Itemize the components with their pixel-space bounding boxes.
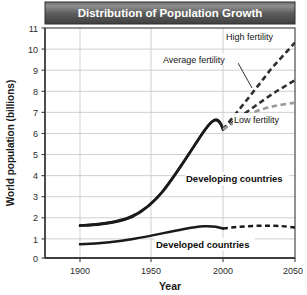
x-tick-label: 2050	[283, 266, 303, 276]
y-tick-label: 6	[33, 129, 38, 139]
y-tick-label: 3	[33, 192, 38, 202]
y-tick-label: 4	[33, 171, 38, 181]
y-tick-label: 1	[33, 235, 38, 245]
y-tick-label: 5	[33, 150, 38, 160]
population-growth-figure: Distribution of Population Growth 11 10 …	[0, 0, 307, 295]
y-tick-labels: 11 10 9 8 7 6 5 4 3 2 1 0	[28, 24, 38, 264]
y-tick-label: 8	[33, 87, 38, 97]
x-axis-title: Year	[159, 280, 181, 292]
chart-canvas: Distribution of Population Growth 11 10 …	[0, 0, 307, 295]
label-high-fertility: High fertility	[226, 32, 274, 42]
x-tick-label: 1950	[141, 266, 161, 276]
y-tick-label: 10	[28, 45, 38, 55]
y-axis-title: World population (billions)	[5, 80, 16, 206]
y-tick-label: 2	[33, 213, 38, 223]
label-low-fertility: Low fertility	[234, 115, 280, 125]
x-tick-label: 2000	[213, 266, 233, 276]
label-developed-countries: Developed countries	[156, 239, 249, 250]
x-tick-label: 1900	[70, 266, 90, 276]
y-tick-label: 9	[33, 66, 38, 76]
label-developing-countries: Developing countries	[186, 173, 283, 184]
chart-title: Distribution of Population Growth	[78, 7, 263, 19]
y-tick-label: 7	[33, 108, 38, 118]
x-tick-labels: 1900 1950 2000 2050	[70, 266, 303, 276]
y-tick-label: 0	[33, 254, 38, 264]
y-tick-label: 11	[29, 24, 38, 34]
label-average-fertility: Average fertility	[163, 55, 225, 65]
